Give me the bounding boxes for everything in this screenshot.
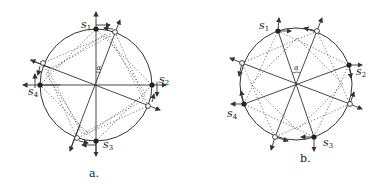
tangent-arrow-o2 [152, 94, 154, 102]
filled-point-s1-b [275, 28, 280, 33]
label-s1-a: s1 [81, 18, 91, 32]
open-point-b4 [240, 61, 245, 66]
open-point-b2 [348, 102, 353, 107]
filled-point-s1-a [93, 26, 98, 31]
tangent-arrow-o3 [79, 141, 88, 143]
open-point-a3 [75, 136, 80, 141]
panel-a: α s1 s2 s3 s4 a. [23, 12, 169, 180]
label-s4-b: s4 [227, 107, 238, 121]
label-s2-a: s2 [159, 73, 169, 87]
filled-point-s2-a [149, 82, 154, 87]
caption-b: b. [300, 152, 311, 165]
angle-label-a: α [97, 64, 102, 72]
label-s3-a: s3 [103, 138, 113, 152]
filled-point-s2-b [346, 62, 351, 67]
filled-point-s4-b [241, 101, 246, 106]
filled-point-s4-a [37, 82, 42, 87]
label-s4-a: s4 [28, 85, 39, 99]
angle-label-b: α [294, 64, 299, 72]
filled-point-s3-b [311, 134, 316, 139]
diagram-canvas: α s1 s2 s3 s4 a. [0, 0, 380, 188]
open-point-a4 [41, 61, 46, 66]
label-s3-b: s3 [323, 136, 333, 150]
open-point-a2 [146, 104, 151, 109]
label-s2-b: s2 [356, 65, 366, 79]
tangent-arrow-o1 [104, 28, 113, 29]
open-point-b1 [315, 29, 320, 34]
angle-arc-b [293, 72, 301, 73]
open-point-b3 [273, 135, 278, 140]
open-point-a1 [113, 30, 118, 35]
filled-point-s3-a [93, 138, 98, 143]
label-s1-b: s1 [259, 19, 269, 33]
tangent-arrow-o4 [38, 66, 40, 75]
panel-b: α s1 s2 s3 s4 b. [227, 18, 366, 165]
caption-a: a. [89, 167, 99, 180]
